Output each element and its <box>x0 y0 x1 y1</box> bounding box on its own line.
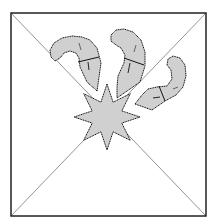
diagram-canvas <box>0 0 211 224</box>
center-star <box>74 84 140 150</box>
diagram-svg <box>0 0 211 224</box>
